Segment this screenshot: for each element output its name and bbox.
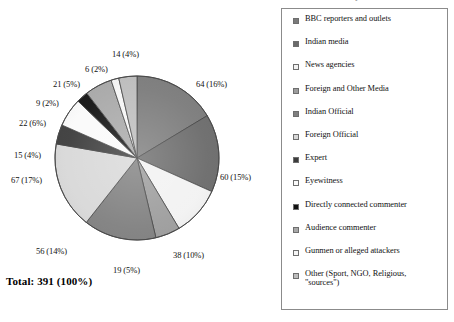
legend-item[interactable]: Foreign Official xyxy=(293,131,443,154)
legend-swatch-icon xyxy=(293,18,299,24)
legend-item-label: Audience commenter xyxy=(305,224,376,233)
legend-item-label: Eyewitness xyxy=(305,177,343,186)
legend-item-label: Expert xyxy=(305,154,327,163)
legend-item[interactable]: Eyewitness xyxy=(293,177,443,200)
clipped-title-fragment: ء xyxy=(355,0,359,3)
pie-chart-svg xyxy=(0,0,280,322)
slice-value-label: 22 (6%) xyxy=(19,118,46,128)
slice-value-label: 38 (10%) xyxy=(173,250,204,260)
legend-item[interactable]: Foreign and Other Media xyxy=(293,85,443,108)
legend-swatch-icon xyxy=(293,41,299,47)
legend-item[interactable]: News agencies xyxy=(293,61,443,84)
legend-swatch-icon xyxy=(293,273,299,279)
slice-value-label: 67 (17%) xyxy=(11,175,42,185)
legend-swatch-icon xyxy=(293,88,299,94)
pie-chart xyxy=(0,0,280,322)
slice-value-label: 19 (5%) xyxy=(113,265,140,275)
slice-value-label: 56 (14%) xyxy=(36,246,67,256)
legend-swatch-icon xyxy=(293,204,299,210)
legend-item-label: Gunmen or alleged attackers xyxy=(305,247,400,256)
legend-item[interactable]: Indian Official xyxy=(293,108,443,131)
legend-item[interactable]: Expert xyxy=(293,154,443,177)
legend-item[interactable]: Other (Sport, NGO, Religious, "sources") xyxy=(293,270,443,300)
legend-item[interactable]: Audience commenter xyxy=(293,224,443,247)
slice-value-label: 15 (4%) xyxy=(14,150,41,160)
legend-item[interactable]: BBC reporters and outlets xyxy=(293,15,443,38)
legend-item-label: Indian media xyxy=(305,38,348,47)
legend-item-label: Other (Sport, NGO, Religious, "sources") xyxy=(305,270,406,288)
slice-value-label: 14 (4%) xyxy=(112,49,139,59)
chart-total-label: Total: 391 (100%) xyxy=(6,275,92,287)
legend-item-label: Directly connected commenter xyxy=(305,201,407,210)
legend-item-label: Indian Official xyxy=(305,108,354,117)
legend-swatch-icon xyxy=(293,134,299,140)
slice-value-label: 60 (15%) xyxy=(220,172,251,182)
slice-value-label: 21 (5%) xyxy=(53,79,80,89)
pie-chart-area: 64 (16%)60 (15%)38 (10%)19 (5%)56 (14%)6… xyxy=(0,0,280,322)
slice-value-label: 9 (2%) xyxy=(36,98,59,108)
legend-swatch-icon xyxy=(293,227,299,233)
slice-value-label: 64 (16%) xyxy=(196,79,227,89)
legend-item-label: News agencies xyxy=(305,61,354,70)
pie-outline xyxy=(55,76,219,240)
legend-item-label: Foreign Official xyxy=(305,131,358,140)
legend-box: BBC reporters and outletsIndian mediaNew… xyxy=(281,8,448,310)
legend-swatch-icon xyxy=(293,157,299,163)
legend-swatch-icon xyxy=(293,250,299,256)
legend-item[interactable]: Gunmen or alleged attackers xyxy=(293,247,443,270)
legend-swatch-icon xyxy=(293,111,299,117)
legend-item[interactable]: Indian media xyxy=(293,38,443,61)
slice-value-label: 6 (2%) xyxy=(85,64,108,74)
legend-item-label: BBC reporters and outlets xyxy=(305,15,391,24)
legend-list: BBC reporters and outletsIndian mediaNew… xyxy=(293,15,443,300)
legend-swatch-icon xyxy=(293,64,299,70)
legend-item-label: Foreign and Other Media xyxy=(305,85,389,94)
legend-item[interactable]: Directly connected commenter xyxy=(293,201,443,224)
legend-swatch-icon xyxy=(293,180,299,186)
